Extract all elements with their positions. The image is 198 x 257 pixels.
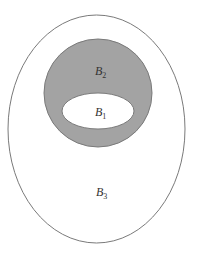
nested-sets-diagram: B2 B1 B3 — [0, 0, 198, 257]
label-b3-subscript: 3 — [103, 192, 107, 201]
label-b2-subscript: 2 — [102, 71, 106, 80]
label-b1-subscript: 1 — [102, 112, 106, 121]
